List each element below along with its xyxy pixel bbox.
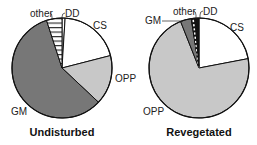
label-left-cs: CS: [93, 20, 107, 31]
pie-revegetated: [149, 18, 249, 118]
title-undisturbed: Undisturbed: [30, 126, 95, 138]
label-left-gm: GM: [11, 106, 27, 117]
label-right-cs: CS: [230, 22, 244, 33]
pie-chart-figure: other DD CS OPP GM Undisturbed GM other …: [0, 0, 257, 145]
label-right-dd: DD: [203, 6, 217, 17]
label-right-other: other: [173, 6, 196, 17]
chart-canvas: other DD CS OPP GM Undisturbed GM other …: [0, 0, 257, 145]
label-left-other: other: [30, 8, 53, 19]
label-right-opp: OPP: [143, 106, 164, 117]
label-left-opp: OPP: [115, 73, 136, 84]
pie-undisturbed: [12, 18, 112, 118]
title-revegetated: Revegetated: [166, 126, 231, 138]
label-right-gm: GM: [145, 15, 161, 26]
label-left-dd: DD: [65, 8, 79, 19]
